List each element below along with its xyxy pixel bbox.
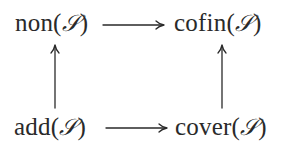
ideal-symbol: 𝒮 xyxy=(235,10,253,36)
arrow-up-icon xyxy=(218,45,226,108)
open-paren: ( xyxy=(232,113,241,140)
close-paren: ) xyxy=(80,9,89,36)
node-label: cover xyxy=(175,113,232,140)
node-label: non xyxy=(15,9,53,36)
arrow-up-icon xyxy=(51,45,59,108)
open-paren: ( xyxy=(53,9,62,36)
ideal-symbol: 𝒮 xyxy=(240,114,258,140)
ideal-symbol: 𝒮 xyxy=(59,114,77,140)
node-cover-S: cover(𝒮) xyxy=(175,112,267,142)
open-paren: ( xyxy=(51,113,60,140)
arrow-right-icon xyxy=(106,124,167,132)
node-label: cofin xyxy=(174,9,226,36)
close-paren: ) xyxy=(258,113,267,140)
close-paren: ) xyxy=(77,113,86,140)
ideal-symbol: 𝒮 xyxy=(62,10,80,36)
close-paren: ) xyxy=(253,9,262,36)
arrow-right-icon xyxy=(103,21,164,29)
node-label: add xyxy=(14,113,51,140)
node-add-S: add(𝒮) xyxy=(14,112,86,142)
open-paren: ( xyxy=(226,9,235,36)
node-non-S: non(𝒮) xyxy=(15,8,88,38)
node-cofin-S: cofin(𝒮) xyxy=(174,8,262,38)
